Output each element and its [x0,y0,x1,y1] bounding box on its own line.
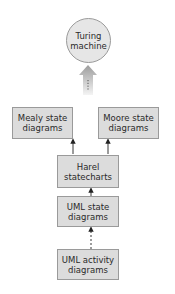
node-uml-state-diagrams: UML state diagrams [57,196,119,227]
node-label: Turing machine [70,31,107,51]
node-harel-statecharts: Harel statecharts [57,155,119,188]
node-moore-state-diagrams: Moore state diagrams [98,107,159,139]
node-label: Harel statecharts [64,162,112,182]
node-label: Mealy state diagrams [18,113,67,133]
node-label: UML activity diagrams [62,255,114,275]
generalization-arrow-to-turing [79,65,97,95]
node-label: Moore state diagrams [103,113,154,133]
diagram-canvas: Turing machine Mealy state diagrams Moor… [0,0,175,294]
node-turing-machine: Turing machine [66,18,111,63]
node-mealy-state-diagrams: Mealy state diagrams [12,107,73,139]
node-uml-activity-diagrams: UML activity diagrams [57,249,119,280]
node-label: UML state diagrams [67,202,110,222]
